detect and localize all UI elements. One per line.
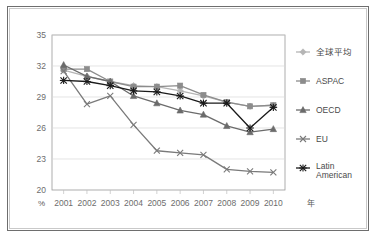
x-axis-tick-label: 2008: [217, 198, 236, 208]
y-axis-tick-label: 20: [37, 185, 47, 195]
legend-item-ASPAC[interactable]: ASPAC: [296, 76, 344, 86]
legend-label-line2: American: [316, 170, 352, 180]
chart-svg: 2023262932352001200220032004200520062007…: [0, 0, 384, 241]
x-axis-tick-label: 2005: [147, 198, 166, 208]
legend-label: 全球平均: [316, 47, 352, 57]
x-axis-tick-label: 2010: [264, 198, 283, 208]
legend-item-OECD[interactable]: OECD: [296, 105, 341, 115]
y-axis-tick-label: 29: [37, 92, 47, 102]
legend-marker-square-marker: [300, 78, 305, 83]
series-point-square-marker: [178, 83, 183, 88]
y-axis-unit-label: %: [38, 199, 45, 208]
series-point-square-marker: [201, 92, 206, 97]
legend-marker-diamond-marker: [300, 49, 306, 55]
x-axis-tick-label: 2009: [241, 198, 260, 208]
y-axis-tick-label: 32: [37, 61, 47, 71]
legend-label: OECD: [316, 105, 341, 115]
x-axis-tick-label: 2004: [124, 198, 143, 208]
x-axis-tick-label: 2007: [194, 198, 213, 208]
legend-item-全球平均[interactable]: 全球平均: [296, 47, 352, 57]
y-axis-tick-label: 26: [37, 123, 47, 133]
legend-item-EU[interactable]: EU: [296, 134, 328, 144]
y-axis-tick-label: 23: [37, 154, 47, 164]
x-axis-tick-label: 2003: [101, 198, 120, 208]
x-axis-tick-label: 2002: [77, 198, 96, 208]
series-point-square-marker: [84, 67, 89, 72]
series-point-square-marker: [247, 104, 252, 109]
x-axis-tick-label: 2006: [171, 198, 190, 208]
x-axis-unit-label: 年: [307, 198, 315, 208]
legend-label: ASPAC: [316, 76, 344, 86]
line-chart: 2023262932352001200220032004200520062007…: [0, 0, 384, 241]
legend-item-Latin American[interactable]: LatinAmerican: [296, 161, 352, 180]
legend-label: EU: [316, 134, 328, 144]
y-axis-tick-label: 35: [37, 30, 47, 40]
x-axis-tick-label: 2001: [54, 198, 73, 208]
plot-area: [52, 35, 285, 190]
